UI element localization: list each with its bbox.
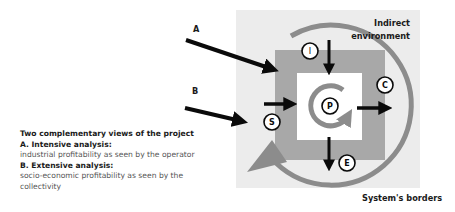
extensive-analysis-desc-line2: collectivity <box>20 182 250 193</box>
svg-text:C: C <box>382 81 388 90</box>
node-customers: C <box>377 77 393 93</box>
indirect-label-line2: environment <box>351 30 410 43</box>
node-project: P <box>322 98 338 114</box>
svg-text:S: S <box>269 118 275 127</box>
indirect-label-line1: Indirect <box>351 17 410 30</box>
svg-text:E: E <box>344 159 349 168</box>
node-suppliers: S <box>264 114 280 130</box>
svg-text:I: I <box>309 47 311 56</box>
intensive-analysis-desc: industrial profitability as seen by the … <box>20 150 250 161</box>
intensive-analysis-title: A. Intensive analysis: <box>20 140 250 151</box>
extensive-analysis-desc-line1: socio-economic profitability as seen by … <box>20 171 250 182</box>
arrow-b <box>185 108 241 121</box>
system-borders-label: System's borders <box>362 193 442 203</box>
caption-heading: Two complementary views of the project <box>20 129 250 140</box>
caption-block: Two complementary views of the project A… <box>20 129 250 192</box>
extensive-analysis-title: B. Extensive analysis: <box>20 161 250 172</box>
project-views-diagram: I P S C E A B Indirect environment Syste… <box>0 0 455 212</box>
arrow-a-label: A <box>193 24 199 34</box>
svg-text:P: P <box>327 102 333 111</box>
arrow-b-label: B <box>192 86 198 96</box>
indirect-environment-label: Indirect environment <box>351 17 410 43</box>
node-inputs: I <box>302 43 318 59</box>
node-externalities: E <box>339 155 355 171</box>
